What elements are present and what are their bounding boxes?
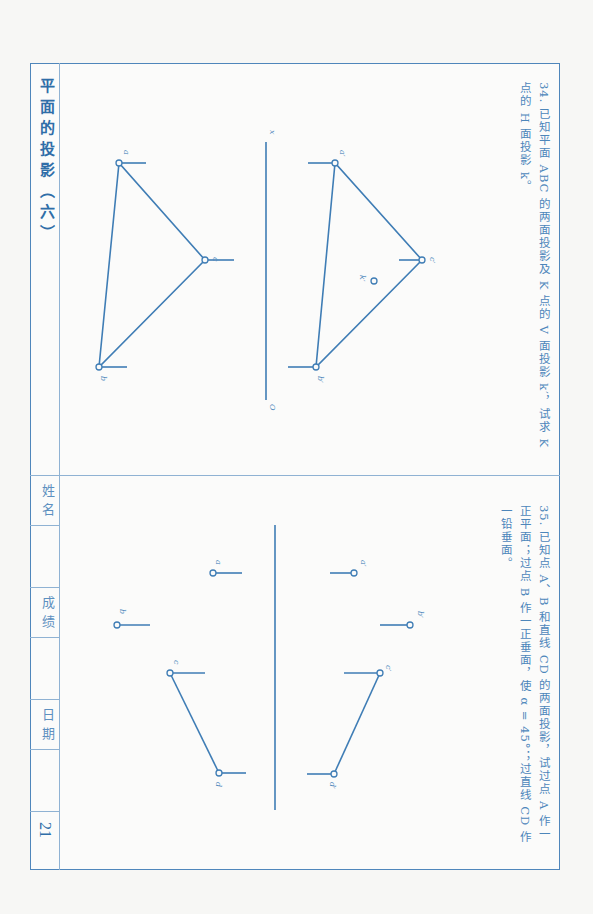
triangle-h-projection: [99, 163, 205, 367]
svg-text:b′: b′: [416, 611, 425, 618]
svg-text:a′: a′: [359, 560, 368, 567]
svg-text:d′: d′: [328, 782, 337, 789]
svg-text:c′: c′: [384, 665, 393, 671]
svg-text:O: O: [268, 404, 277, 411]
triangle-v-projection: [316, 163, 422, 367]
svg-text:b′: b′: [316, 376, 325, 383]
svg-text:x: x: [268, 130, 277, 135]
svg-text:a′: a′: [338, 150, 347, 157]
svg-text:a: a: [122, 150, 131, 155]
svg-text:d: d: [214, 782, 223, 787]
svg-text:c: c: [211, 257, 220, 262]
point-k-prime: [371, 278, 377, 284]
svg-text:k′: k′: [358, 275, 367, 282]
svg-text:b: b: [99, 376, 108, 381]
svg-text:a: a: [214, 560, 223, 565]
svg-text:c′: c′: [428, 257, 437, 263]
svg-text:b: b: [118, 609, 127, 614]
line-cd-v: [334, 673, 380, 774]
svg-text:c: c: [172, 660, 181, 665]
projection-drawings: a′ b′ c′ k′ a b c x O a′ b′ c′ d′ a b c …: [0, 0, 593, 914]
line-cd-h: [170, 673, 219, 773]
